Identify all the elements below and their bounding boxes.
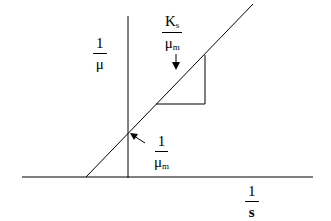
intercept-label: 1 μm	[154, 134, 169, 171]
x-axis-label-numerator: 1	[245, 184, 259, 202]
slope-arrow-icon	[172, 54, 180, 70]
y-axis-label: 1 μ	[93, 36, 107, 72]
intercept-label-denominator: μ	[154, 154, 162, 170]
intercept-arrow-icon	[130, 133, 145, 143]
slope-label-numerator: K	[165, 13, 176, 29]
x-axis-label: 1 s	[245, 184, 259, 220]
slope-label: Ks μm	[162, 14, 182, 52]
y-axis-label-numerator: 1	[93, 36, 107, 54]
slope-label-denominator-sub: m	[173, 42, 180, 52]
slope-label-denominator: μ	[165, 35, 173, 51]
intercept-label-numerator: 1	[155, 134, 169, 152]
x-axis-label-denominator: s	[249, 202, 255, 220]
y-axis-label-denominator: μ	[96, 54, 104, 72]
slope-label-numerator-sub: s	[176, 20, 180, 30]
intercept-label-denominator-sub: m	[162, 161, 169, 171]
